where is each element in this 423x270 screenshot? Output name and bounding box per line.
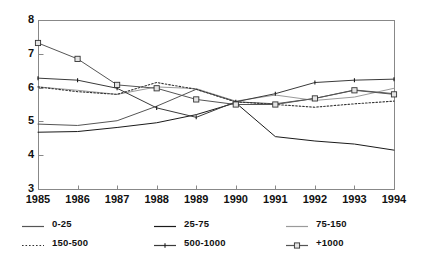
legend-label: 25-75 [184, 218, 209, 229]
legend-label: 0-25 [52, 218, 72, 229]
legend-swatch-icon [154, 237, 176, 248]
series-line-500-1000 [38, 78, 394, 117]
series-marker [312, 96, 317, 101]
legend-swatch-icon [22, 237, 44, 248]
x-tick-label: 1989 [176, 193, 216, 205]
legend-swatch-icon [286, 237, 308, 248]
x-tick-label: 1990 [216, 193, 256, 205]
legend-item-75-150[interactable]: 75-150 [286, 216, 347, 230]
series-marker [391, 92, 396, 97]
series-marker [75, 56, 80, 61]
series-line-75-150 [38, 87, 394, 101]
legend-item-25-75[interactable]: 25-75 [154, 216, 209, 230]
series-marker [115, 82, 120, 87]
x-tick-label: 1988 [137, 193, 177, 205]
legend-label: 500-1000 [184, 237, 226, 248]
chart-legend: 0-2525-7575-150150-500500-1000+1000 [22, 216, 402, 258]
x-tick-label: 1991 [255, 193, 295, 205]
y-tick-label: 8 [18, 13, 34, 25]
legend-label: 150-500 [52, 237, 88, 248]
series-marker [352, 88, 357, 93]
y-tick-label: 6 [18, 81, 34, 93]
series-marker [273, 102, 278, 107]
x-tick-label: 1987 [97, 193, 137, 205]
x-tick-label: 1986 [58, 193, 98, 205]
legend-swatch-icon [154, 218, 176, 229]
legend-item-150-500[interactable]: 150-500 [22, 235, 88, 249]
series-marker [154, 86, 159, 91]
y-tick-label: 4 [18, 148, 34, 160]
series-marker [35, 40, 40, 45]
legend-label: 75-150 [316, 218, 347, 229]
series-marker [194, 97, 199, 102]
legend-item-0-25[interactable]: 0-25 [22, 216, 72, 230]
y-tick-label: 7 [18, 47, 34, 59]
legend-item-500-1000[interactable]: 500-1000 [154, 235, 226, 249]
x-tick-label: 1993 [334, 193, 374, 205]
line-chart: 345678 198519861987198819891990199119921… [0, 0, 423, 270]
x-tick-label: 1994 [374, 193, 414, 205]
y-tick-label: 5 [18, 114, 34, 126]
legend-swatch-icon [22, 218, 44, 229]
legend-swatch-icon [286, 218, 308, 229]
legend-item--1000[interactable]: +1000 [286, 235, 344, 249]
series-marker [233, 102, 238, 107]
legend-label: +1000 [316, 237, 344, 248]
x-tick-label: 1985 [18, 193, 58, 205]
x-tick-label: 1992 [295, 193, 335, 205]
